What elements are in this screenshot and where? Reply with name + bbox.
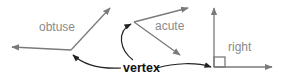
obtuse-label: obtuse [39,20,75,34]
vertex-pointer-acute [121,24,133,60]
vertex-label: vertex [123,61,160,75]
angle-types-diagram: obtuse acute right vertex [0,0,281,78]
obtuse-ray-upper [71,8,110,50]
acute-angle: acute [134,8,188,55]
acute-label: acute [155,19,185,33]
vertex-pointer-obtuse [73,55,121,68]
vertex-callout: vertex [73,24,211,75]
obtuse-ray-left [12,47,71,50]
vertex-pointer-right [157,64,211,68]
right-label: right [228,40,252,54]
right-angle: right [214,8,272,67]
right-angle-marker [214,57,225,67]
obtuse-angle: obtuse [12,8,110,50]
